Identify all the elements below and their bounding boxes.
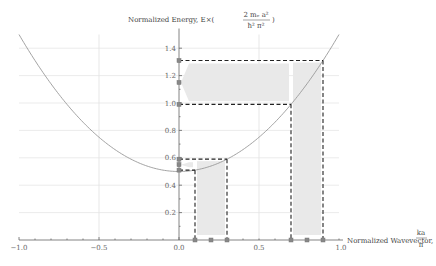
y-label-denominator: ħ² π²	[248, 22, 265, 30]
x-marker	[289, 238, 293, 242]
y-axis-label: Normalized Energy, E×(	[128, 16, 215, 24]
y-marker	[177, 80, 181, 84]
x-marker	[209, 238, 213, 242]
y-tick-label: 1.4	[165, 45, 177, 53]
y-marker	[177, 163, 181, 167]
shaded-regions	[181, 63, 321, 235]
y-tick-label: 0.8	[165, 127, 176, 135]
x-marker	[193, 238, 197, 242]
y-tick-label: 0.6	[165, 154, 177, 162]
y-marker	[177, 157, 181, 161]
energy-band-shade	[181, 162, 193, 167]
y-marker	[177, 102, 181, 106]
y-tick-label: 1.0	[165, 100, 176, 108]
dispersion-chart: −1.0−0.50.00.51.00.20.40.60.81.01.21.4No…	[0, 0, 436, 266]
x-tick-label: 0.5	[253, 244, 264, 252]
k-band-shade	[293, 63, 321, 235]
x-tick-label: −1.0	[11, 244, 28, 252]
x-label-denominator: π	[419, 241, 424, 249]
y-label-numerator: 2 mₑ a²	[243, 11, 268, 19]
x-marker	[321, 238, 325, 242]
x-tick-label: 1.0	[335, 244, 346, 252]
y-marker	[177, 59, 181, 63]
k-band-shade	[197, 161, 225, 235]
y-marker	[177, 168, 181, 172]
y-label-suffix: )	[272, 16, 275, 24]
y-tick-label: 0.2	[165, 209, 176, 217]
energy-band-shade	[181, 64, 289, 102]
x-label-numerator: ka	[417, 229, 425, 237]
y-tick-label: 0.4	[165, 182, 177, 190]
y-tick-label: 1.2	[165, 72, 176, 80]
x-tick-label: 0.0	[173, 244, 184, 252]
x-marker	[305, 238, 309, 242]
x-marker	[225, 238, 229, 242]
x-tick-label: −0.5	[91, 244, 108, 252]
